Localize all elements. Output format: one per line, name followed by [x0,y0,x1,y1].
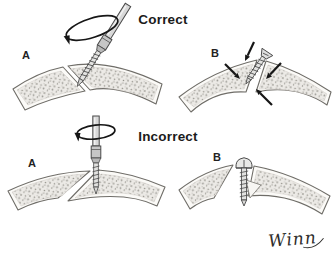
panel-label-correct-b: B [211,47,219,59]
bone-fragment-left [179,60,257,112]
illustration-canvas: Correct Incorrect A B A B Winn [0,0,333,256]
panel-label-correct-a: A [22,49,30,61]
bone-fragment-right [68,64,162,104]
bone-fragment-right [248,166,330,214]
compression-arrow-icon [256,89,272,105]
correct-title: Correct [138,12,188,27]
compression-arrow-icon [245,42,254,61]
panel-label-incorrect-b: B [213,151,221,163]
panel-correct-b [179,42,331,112]
artist-signature: Winn [267,226,324,251]
screwdriver-chuck [91,146,101,158]
panel-label-incorrect-a: A [28,157,36,169]
screwdriver-shaft [93,116,99,146]
bone-fragment-right [256,61,331,105]
screw-tip [241,200,246,206]
bone-fragment-left [179,165,233,209]
panel-incorrect-b [179,158,330,214]
screwdriver-collet [91,158,101,163]
medical-illustration-figure: Correct Incorrect A B A B Winn [0,0,333,256]
incorrect-title: Incorrect [138,129,198,144]
